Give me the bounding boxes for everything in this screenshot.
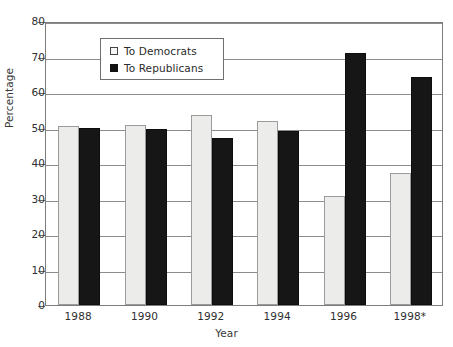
gridline (46, 165, 442, 166)
open-square-marker-icon (110, 47, 118, 55)
filled-square-marker-icon (110, 64, 118, 72)
x-axis-title: Year (0, 327, 453, 339)
y-axis-tick-label: 60 (9, 86, 45, 98)
bar-1992-republicans (212, 138, 233, 305)
bar-1996-democrats (324, 196, 345, 305)
bar-1994-democrats (257, 121, 278, 305)
bar-1998-democrats (390, 173, 411, 305)
gridline (46, 23, 442, 24)
legend-item-to-republicans: To Republicans (110, 61, 203, 75)
bar-1992-democrats (191, 115, 212, 305)
bar-1990-republicans (146, 129, 167, 305)
y-axis-tick-label: 0 (9, 299, 45, 311)
legend-label: To Democrats (124, 45, 197, 57)
bar-1988-republicans (79, 128, 100, 306)
bar-1988-democrats (58, 126, 79, 305)
x-axis-tick-label: 1998* (377, 310, 443, 322)
chart-figure: Percentage 01020304050607080 19881990199… (0, 0, 453, 347)
y-axis-tick-label: 40 (9, 157, 45, 169)
bar-1990-democrats (125, 125, 146, 305)
legend-label: To Republicans (124, 62, 203, 74)
x-axis-tick-label: 1994 (244, 310, 310, 322)
x-axis-tick-label: 1992 (178, 310, 244, 322)
chart-legend: To Democrats To Republicans (100, 38, 224, 80)
y-axis: 01020304050607080 (0, 0, 45, 347)
bar-1994-republicans (278, 131, 299, 305)
y-axis-tick-label: 70 (9, 51, 45, 63)
y-axis-tick-label: 20 (9, 228, 45, 240)
x-axis-tick-label: 1988 (45, 310, 111, 322)
bar-1996-republicans (345, 53, 366, 305)
y-axis-tick-label: 50 (9, 122, 45, 134)
y-axis-tick-label: 10 (9, 264, 45, 276)
gridline (46, 201, 442, 202)
x-axis-tick-label: 1996 (310, 310, 376, 322)
gridline (46, 236, 442, 237)
y-axis-tick-label: 30 (9, 193, 45, 205)
gridline (46, 94, 442, 95)
bar-1998-republicans (411, 77, 432, 305)
legend-item-to-democrats: To Democrats (110, 44, 197, 58)
gridline (46, 130, 442, 131)
y-axis-tick-label: 80 (9, 15, 45, 27)
x-axis-tick-label: 1990 (111, 310, 177, 322)
gridline (46, 272, 442, 273)
